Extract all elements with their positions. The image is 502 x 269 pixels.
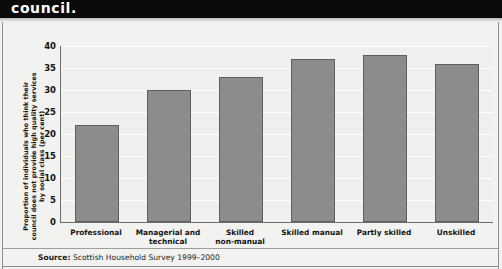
x-axis-label: Professional [60,228,132,237]
y-axis-tick-label: 20 [38,130,56,138]
bar [75,125,119,222]
gridline [61,200,493,201]
y-axis-title-line1: Proportion of individuals who think thei… [22,82,30,231]
right-rule [498,22,499,269]
y-axis-tick-label: 5 [38,196,56,204]
bar [363,55,407,222]
x-axis-label: Skilled manual [276,228,348,237]
x-axis-label: Partly skilled [348,228,420,237]
y-axis-tick-label: 25 [38,108,56,116]
x-axis-label: Unskilled [420,228,492,237]
y-axis-tick-label: 15 [38,152,56,160]
gridline [61,46,493,47]
bar [219,77,263,222]
header-banner: council. [0,0,502,18]
x-axis-label-line: non-manual [215,237,264,246]
y-axis-ticks: 0510152025303540 [36,46,56,224]
bar [147,90,191,222]
figure-page: council. Proportion of individuals who t… [0,0,502,269]
y-axis-tick-label: 35 [38,64,56,72]
gridline [61,90,493,91]
left-rule [2,22,3,269]
x-axis-label: Managerial andtechnical [132,228,204,247]
bar [435,64,479,222]
x-axis-labels: ProfessionalManagerial andtechnicalSkill… [60,228,493,254]
header-banner-text: council. [11,0,77,17]
source-text: Scottish Household Survey 1999–2000 [71,253,220,262]
bottom-rule [3,266,498,267]
y-axis-tick-label: 0 [38,218,56,226]
gridline [61,68,493,69]
x-axis-label: Skillednon-manual [204,228,276,247]
source-divider [3,248,498,249]
chart-figure: Proportion of individuals who think thei… [0,22,502,269]
gridline [61,156,493,157]
source-label: Source: [38,253,71,262]
x-axis-label-line: Managerial and [136,228,201,237]
y-axis-tick-label: 10 [38,174,56,182]
gridline [61,112,493,113]
x-axis-label-line: Skilled manual [281,228,342,237]
source-note: Source: Scottish Household Survey 1999–2… [38,253,220,263]
x-axis-label-line: Unskilled [437,228,475,237]
gridline [61,134,493,135]
gridline [61,178,493,179]
plot-area [60,46,493,223]
x-axis-label-line: Professional [70,228,122,237]
y-axis-tick-label: 30 [38,86,56,94]
y-axis-tick-label: 40 [38,42,56,50]
x-axis-label-line: Skilled [226,228,254,237]
x-axis-label-line: technical [149,237,187,246]
x-axis-label-line: Partly skilled [357,228,412,237]
bar [291,59,335,222]
